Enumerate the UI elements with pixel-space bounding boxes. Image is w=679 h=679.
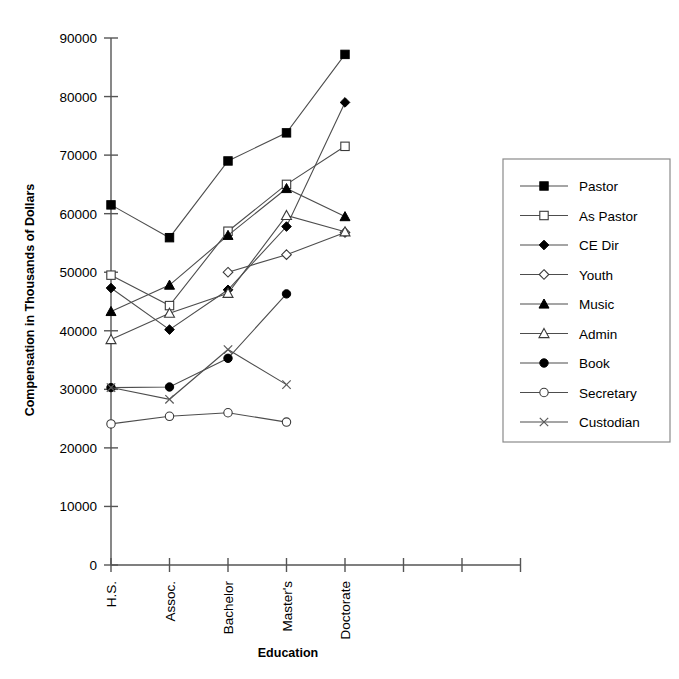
data-point-open-circle xyxy=(165,412,173,420)
data-point-open-triangle xyxy=(106,335,116,344)
data-point-cross xyxy=(282,380,290,388)
data-point-open-triangle xyxy=(282,210,292,219)
x-tick-label: H.S. xyxy=(104,581,119,607)
data-point-filled-triangle xyxy=(106,306,116,315)
y-axis: 0100002000030000400005000060000700008000… xyxy=(59,31,118,573)
data-point-filled-circle xyxy=(224,354,232,362)
data-point-filled-square xyxy=(107,201,115,209)
data-point-open-circle xyxy=(107,420,115,428)
data-point-open-square xyxy=(540,211,548,219)
series-layer xyxy=(106,50,350,428)
y-tick-label: 40000 xyxy=(59,324,97,339)
y-tick-label: 10000 xyxy=(59,499,97,514)
data-point-filled-diamond xyxy=(106,283,116,293)
y-tick-label: 20000 xyxy=(59,441,97,456)
data-point-open-diamond xyxy=(223,267,233,277)
data-point-open-circle xyxy=(282,418,290,426)
data-point-filled-square xyxy=(165,233,173,241)
data-point-filled-square xyxy=(341,50,349,58)
y-axis-title: Compensation in Thousands of Dollars xyxy=(23,184,37,417)
data-point-filled-diamond xyxy=(165,325,175,335)
data-point-filled-diamond xyxy=(340,98,350,108)
chart-container: 0100002000030000400005000060000700008000… xyxy=(0,0,679,679)
y-tick-label: 60000 xyxy=(59,207,97,222)
data-point-open-circle xyxy=(224,409,232,417)
x-tick-label: Bachelor xyxy=(221,581,236,635)
x-tick-label: Doctorate xyxy=(338,581,353,640)
legend-item-label: Pastor xyxy=(579,179,619,194)
series-secretary xyxy=(107,409,291,429)
data-point-filled-square xyxy=(224,157,232,165)
series-custodian xyxy=(107,345,291,403)
data-point-open-circle xyxy=(540,388,548,396)
legend-item-label: Secretary xyxy=(579,386,637,401)
data-point-open-diamond xyxy=(282,250,292,260)
y-tick-label: 0 xyxy=(89,558,97,573)
series-pastor xyxy=(107,50,349,242)
data-point-open-square xyxy=(107,271,115,279)
data-point-filled-triangle xyxy=(340,212,350,221)
data-point-cross xyxy=(224,345,232,353)
legend-item-label: Youth xyxy=(579,268,613,283)
data-point-cross xyxy=(165,395,173,403)
x-tick-label: Master's xyxy=(280,581,295,632)
y-tick-label: 70000 xyxy=(59,148,97,163)
y-tick-label: 50000 xyxy=(59,265,97,280)
y-tick-label: 30000 xyxy=(59,382,97,397)
legend-item-label: CE Dir xyxy=(579,238,619,253)
line-chart: 0100002000030000400005000060000700008000… xyxy=(0,0,679,679)
x-tick-label: Assoc. xyxy=(163,581,178,622)
data-point-filled-square xyxy=(282,129,290,137)
data-point-filled-circle xyxy=(282,290,290,298)
legend-item-label: Music xyxy=(579,297,615,312)
y-tick-label: 90000 xyxy=(59,31,97,46)
legend-item-label: Admin xyxy=(579,327,617,342)
legend-item-label: As Pastor xyxy=(579,209,638,224)
data-point-open-square xyxy=(341,142,349,150)
y-tick-label: 80000 xyxy=(59,90,97,105)
series-youth xyxy=(223,228,350,277)
x-axis: H.S.Assoc.BachelorMaster'sDoctorate xyxy=(104,558,521,640)
series-ce-dir xyxy=(106,98,350,335)
x-axis-title: Education xyxy=(258,646,318,660)
data-point-filled-circle xyxy=(540,359,548,367)
data-point-filled-circle xyxy=(165,383,173,391)
legend-item-label: Custodian xyxy=(579,415,640,430)
legend-item-label: Book xyxy=(579,356,610,371)
data-point-filled-square xyxy=(540,182,548,190)
legend[interactable]: PastorAs PastorCE DirYouthMusicAdminBook… xyxy=(503,159,670,442)
